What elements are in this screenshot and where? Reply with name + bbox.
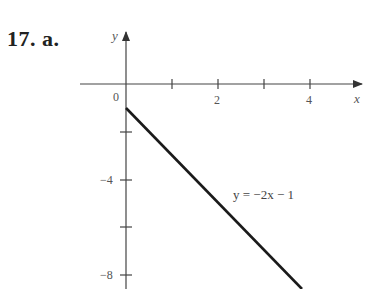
- y-tick-label-neg8: −8: [100, 268, 113, 282]
- x-tick-label-2: 2: [214, 93, 220, 107]
- y-tick-label-neg4: −4: [100, 173, 113, 187]
- x-tick-label-4: 4: [306, 93, 312, 107]
- y-axis-label: y: [110, 28, 118, 43]
- graph: 0 2 4 −4 −8 x y y = −2x − 1: [0, 0, 371, 289]
- equation-label: y = −2x − 1: [233, 187, 294, 202]
- origin-label: 0: [113, 90, 119, 104]
- x-axis-label: x: [353, 91, 360, 106]
